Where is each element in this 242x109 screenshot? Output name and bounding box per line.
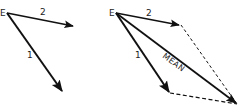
vector-1-label: 1 — [135, 50, 141, 60]
vector-2-label: 2 — [146, 8, 152, 18]
vector-addition-diagram: E 2 1 E 2 1 MEAN — [0, 0, 242, 109]
dashed-construction-line-2 — [181, 25, 237, 104]
vector-1-arrow — [7, 13, 62, 91]
left-panel: E 2 1 — [0, 7, 73, 91]
vector-1-arrow — [116, 13, 169, 92]
vector-2-label: 2 — [40, 7, 46, 17]
origin-label-e: E — [109, 8, 115, 18]
right-panel: E 2 1 MEAN — [109, 8, 237, 104]
mean-vector-label: MEAN — [161, 51, 187, 73]
origin-label-e: E — [0, 8, 6, 18]
dashed-construction-line-1 — [170, 93, 237, 104]
vector-1-label: 1 — [27, 50, 33, 60]
